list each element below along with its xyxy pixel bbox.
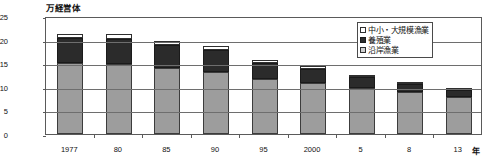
y-tick-label: 10: [0, 83, 8, 92]
y-tick-label: 15: [0, 60, 8, 69]
x-tick-mark: [94, 135, 95, 138]
bar-group: [154, 41, 180, 134]
y-tick-mark: [43, 42, 46, 43]
bar-segment-coastal: [154, 68, 180, 134]
x-tick-mark: [336, 135, 337, 138]
bar-segment-coastal: [349, 88, 375, 134]
legend-item-offshore: 中小・大規模漁業: [360, 25, 429, 35]
y-tick-mark: [43, 18, 46, 19]
x-tick-mark: [385, 135, 386, 138]
bar-segment-aquaculture: [300, 69, 326, 83]
offshore-swatch-icon: [360, 27, 366, 33]
y-tick-label: 25: [0, 13, 8, 22]
x-tick-mark: [433, 135, 434, 138]
x-tick-mark: [191, 135, 192, 138]
bar-group: [203, 46, 229, 134]
gridline: [46, 65, 481, 66]
x-tick-label: 95: [259, 145, 267, 154]
aquaculture-swatch-icon: [360, 37, 366, 43]
bar-group: [252, 60, 278, 134]
bar-segment-coastal: [252, 79, 278, 134]
gridline: [46, 89, 481, 90]
legend-label-offshore: 中小・大規模漁業: [368, 26, 429, 35]
y-tick-label: 20: [0, 36, 8, 45]
coastal-swatch-icon: [360, 47, 366, 53]
y-tick-mark: [43, 112, 46, 113]
bar-segment-coastal: [203, 72, 229, 134]
y-tick-mark: [43, 136, 46, 137]
bar-segment-coastal: [57, 63, 83, 134]
x-tick-mark: [239, 135, 240, 138]
x-tick-mark: [288, 135, 289, 138]
bar-group: [446, 88, 472, 134]
gridline: [46, 112, 481, 113]
bar-segment-aquaculture: [349, 77, 375, 88]
x-tick-label: 5: [359, 145, 363, 154]
x-tick-label: 1977: [61, 145, 78, 154]
bar-group: [106, 34, 132, 134]
legend-item-aquaculture: 養殖業: [360, 35, 429, 45]
x-tick-label: 90: [211, 145, 219, 154]
x-tick-label: 13: [454, 145, 462, 154]
x-tick-mark: [142, 135, 143, 138]
bar-segment-aquaculture: [446, 90, 472, 97]
fishery-management-entities-chart: 万経営体 年 中小・大規模漁業 養殖業 沿岸漁業 051015202519778…: [0, 0, 492, 168]
legend-label-coastal: 沿岸漁業: [368, 46, 398, 55]
x-tick-label: 8: [407, 145, 411, 154]
x-axis-caption: 年: [472, 145, 480, 156]
bar-group: [349, 75, 375, 134]
bar-group: [57, 34, 83, 134]
bar-segment-coastal: [106, 64, 132, 134]
x-tick-label: 2000: [304, 145, 321, 154]
legend-item-coastal: 沿岸漁業: [360, 45, 429, 55]
bar-group: [300, 66, 326, 134]
bar-segment-aquaculture: [203, 50, 229, 72]
x-tick-label: 85: [162, 145, 170, 154]
bar-segment-coastal: [446, 97, 472, 134]
y-tick-label: 5: [0, 107, 8, 116]
y-tick-mark: [43, 65, 46, 66]
legend-label-aquaculture: 養殖業: [368, 36, 391, 45]
y-tick-label: 0: [0, 131, 8, 140]
y-tick-mark: [43, 89, 46, 90]
y-axis-unit-caption: 万経営体: [46, 1, 81, 13]
chart-legend: 中小・大規模漁業 養殖業 沿岸漁業: [357, 22, 433, 58]
bar-segment-coastal: [300, 83, 326, 134]
x-tick-label: 80: [114, 145, 122, 154]
